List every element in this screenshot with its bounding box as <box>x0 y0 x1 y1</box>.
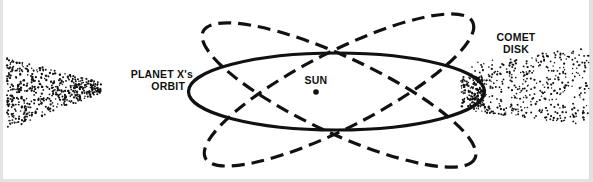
stipple-dot <box>585 82 587 84</box>
stipple-dot <box>39 69 41 71</box>
stipple-dot <box>50 81 52 83</box>
stipple-dot <box>474 93 476 95</box>
stipple-dot <box>586 105 587 106</box>
stipple-dot <box>517 108 519 110</box>
stipple-dot <box>16 122 18 124</box>
stipple-dot <box>52 102 54 104</box>
stipple-dot <box>491 73 493 75</box>
stipple-dot <box>560 59 562 61</box>
stipple-dot <box>460 80 462 82</box>
stipple-dot <box>26 85 28 87</box>
stipple-dot <box>23 121 25 123</box>
stipple-dot <box>13 104 15 106</box>
stipple-dot <box>557 76 559 78</box>
stipple-dot <box>53 87 55 89</box>
stipple-dot <box>500 113 502 115</box>
stipple-dot <box>474 70 476 72</box>
stipple-dot <box>571 86 572 87</box>
comet-disk-label-line2: DISK <box>503 43 529 55</box>
stipple-dot <box>523 72 525 74</box>
stipple-dot <box>588 88 589 89</box>
stipple-dot <box>9 123 11 125</box>
stipple-dot <box>8 72 10 74</box>
stipple-dot <box>480 104 482 106</box>
stipple-dot <box>561 111 563 113</box>
stipple-dot <box>559 53 561 55</box>
stipple-dot <box>23 113 25 115</box>
stipple-dot <box>546 77 548 79</box>
stipple-dot <box>82 87 84 89</box>
stipple-dot <box>498 113 500 115</box>
stipple-dot <box>552 82 554 84</box>
stipple-dot <box>18 83 20 85</box>
stipple-dot <box>484 106 486 108</box>
stipple-dot <box>477 92 479 94</box>
stipple-dot <box>64 98 66 100</box>
stipple-dot <box>582 110 584 112</box>
stipple-dot <box>84 98 86 100</box>
stipple-dot <box>59 74 61 76</box>
stipple-dot <box>547 78 549 80</box>
stipple-dot <box>533 79 535 81</box>
stipple-dot <box>567 82 569 84</box>
diagram-frame: SUN PLANET X's ORBIT COMET DISK <box>0 0 593 182</box>
stipple-dot <box>547 83 549 85</box>
stipple-dot <box>491 64 493 66</box>
stipple-dot <box>16 61 18 63</box>
comet-disk-label-line1: COMET <box>497 31 536 43</box>
stipple-dot <box>583 119 585 121</box>
stipple-dot <box>468 85 469 86</box>
stipple-dot <box>17 85 19 87</box>
stipple-dot <box>555 99 556 100</box>
stipple-dot <box>531 72 533 74</box>
stipple-dot <box>33 70 35 72</box>
stipple-dot <box>29 114 31 116</box>
stipple-dot <box>466 80 468 82</box>
stipple-dot <box>551 87 552 88</box>
stipple-dot <box>11 106 13 108</box>
stipple-dot <box>489 86 491 88</box>
stipple-dot <box>551 99 553 101</box>
stipple-dot <box>575 123 577 125</box>
stipple-dot <box>524 116 526 118</box>
stipple-dot <box>38 103 40 105</box>
stipple-dot <box>63 102 65 104</box>
stipple-dot <box>570 116 572 118</box>
stipple-dot <box>545 53 546 54</box>
stipple-dot <box>544 117 546 119</box>
stipple-dot <box>55 91 57 93</box>
stipple-dot <box>68 92 70 94</box>
stipple-dot <box>42 111 44 113</box>
stipple-dot <box>469 99 471 101</box>
stipple-dot <box>96 93 98 95</box>
stipple-dot <box>481 66 483 68</box>
stipple-dot <box>52 92 54 94</box>
stipple-dot <box>33 103 35 105</box>
stipple-dot <box>564 54 565 55</box>
stipple-dot <box>567 56 569 58</box>
stipple-dot <box>8 59 10 61</box>
stipple-dot <box>517 88 519 90</box>
stipple-dot <box>40 96 42 98</box>
stipple-dot <box>587 112 589 114</box>
stipple-dot <box>78 80 80 82</box>
stipple-dot <box>540 61 542 63</box>
stipple-dot <box>553 106 555 108</box>
stipple-dot <box>100 83 102 85</box>
stipple-dot <box>555 54 557 56</box>
stipple-dot <box>500 91 502 93</box>
stipple-dot <box>473 95 475 97</box>
stipple-dot <box>496 98 498 100</box>
stipple-dot <box>579 96 580 97</box>
stipple-dot <box>501 89 503 91</box>
stipple-dot <box>20 87 22 89</box>
stipple-dot <box>525 95 527 97</box>
stipple-dot <box>579 94 581 96</box>
stipple-dot <box>498 103 500 105</box>
stipple-dot <box>534 117 536 119</box>
stipple-dot <box>84 96 86 98</box>
stipple-dot <box>56 106 58 108</box>
stipple-dot <box>93 82 95 84</box>
stipple-dot <box>576 115 577 116</box>
stipple-dot <box>43 99 45 101</box>
